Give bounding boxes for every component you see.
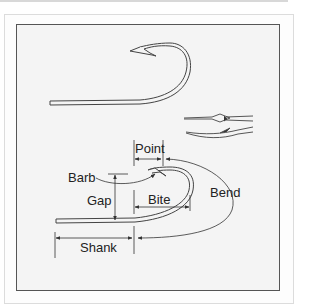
- label-point: Point: [135, 142, 165, 155]
- point-detail-side-view: [186, 127, 253, 138]
- full-hook-illustration: [50, 43, 191, 105]
- label-gap: Gap: [87, 194, 112, 207]
- label-barb: Barb: [68, 171, 95, 184]
- label-bite: Bite: [148, 193, 170, 206]
- label-bend: Bend: [210, 186, 240, 199]
- label-shank: Shank: [80, 241, 117, 254]
- point-detail-top-view: [184, 114, 253, 122]
